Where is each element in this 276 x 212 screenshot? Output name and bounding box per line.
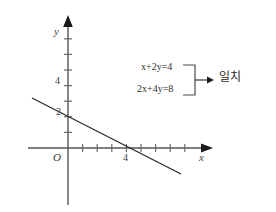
equation-annotation-group: x+2y=4 2x+4y=8 일치 [135, 55, 275, 105]
y-tick-label-2: 2 [56, 107, 61, 117]
origin-label: O [53, 152, 61, 163]
y-axis-arrow-icon [63, 15, 73, 27]
y-axis-label: y [54, 26, 59, 37]
arrow-head-icon [207, 77, 214, 84]
math-figure-graph: y x O 4 2 4 x+2y=4 2x+4y=8 일치 [0, 0, 276, 212]
x-axis-label: x [199, 152, 204, 163]
equation-second: 2x+4y=8 [137, 84, 173, 94]
coordinate-plane [0, 0, 276, 212]
equation-first: x+2y=4 [141, 62, 172, 72]
square-brace-icon [183, 65, 195, 95]
result-label-coincide: 일치 [219, 71, 241, 83]
x-tick-label-4: 4 [123, 153, 128, 163]
brace-and-arrow [183, 55, 223, 105]
y-tick-label-4: 4 [55, 76, 60, 86]
